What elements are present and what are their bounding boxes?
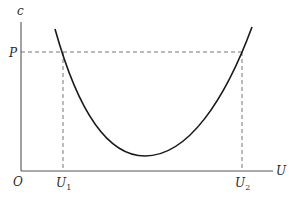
u1-label: U1 [56,176,71,192]
u-shaped-curve [55,27,252,156]
u2-label: U2 [235,176,250,192]
origin-label: O [13,175,23,189]
y-axis-label: c [17,4,24,18]
x-axis-label: U [276,164,287,178]
cost-curve-diagram: c P O U U1 U2 [0,0,291,197]
price-label: P [8,46,18,60]
